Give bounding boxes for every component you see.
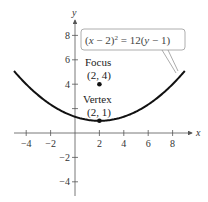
x-tick-label: 6 xyxy=(146,138,151,149)
callout-pointer-left xyxy=(162,50,176,73)
y-tick-label: −4 xyxy=(59,176,70,187)
y-axis-label: y xyxy=(71,7,77,18)
vertex-point xyxy=(97,119,102,124)
x-axis-label: x xyxy=(195,127,201,138)
focus-label: Focus xyxy=(85,56,111,68)
y-tick-label: 8 xyxy=(65,30,70,41)
y-tick-label: 6 xyxy=(65,54,70,65)
x-tick-label: 4 xyxy=(121,138,126,149)
vertex-label: Vertex xyxy=(83,93,112,105)
graph-canvas: x y −4−22468 864−2−4 Focus (2, 4) Vertex… xyxy=(0,0,208,202)
x-tick-label: −4 xyxy=(21,138,32,149)
equation-text: (x − 2)2 = 12(y − 1) xyxy=(85,34,170,47)
y-tick-label: −2 xyxy=(59,152,70,163)
x-tick-label: −2 xyxy=(45,138,56,149)
parabola-figure: x y −4−22468 864−2−4 Focus (2, 4) Vertex… xyxy=(0,0,208,202)
vertex-coords: (2, 1) xyxy=(87,106,111,119)
x-tick-label: 2 xyxy=(97,138,102,149)
focus-coords: (2, 4) xyxy=(87,69,111,82)
focus-point xyxy=(97,82,102,87)
x-tick-label: 8 xyxy=(170,138,175,149)
y-tick-label: 4 xyxy=(65,79,70,90)
